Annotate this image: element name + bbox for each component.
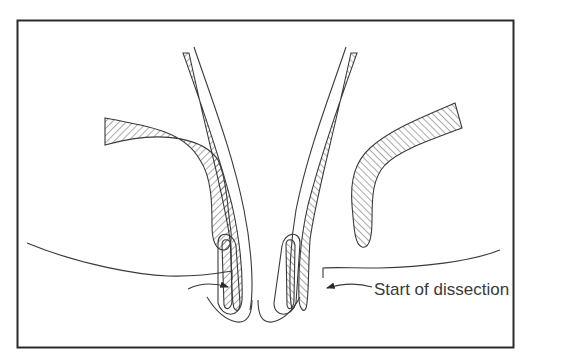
right-inner-fold (286, 240, 295, 309)
dissection-diagram: Start of dissection (0, 0, 564, 362)
right-outer-muscle (352, 103, 462, 247)
right-dissection-arrow (327, 284, 372, 288)
right-tube-wall (299, 53, 357, 310)
left-dissection-arrow (188, 284, 228, 289)
left-inner-fold (222, 240, 232, 309)
left-skin-line (27, 243, 232, 280)
right-skin-line (323, 250, 500, 278)
start-of-dissection-label: Start of dissection (374, 280, 509, 299)
